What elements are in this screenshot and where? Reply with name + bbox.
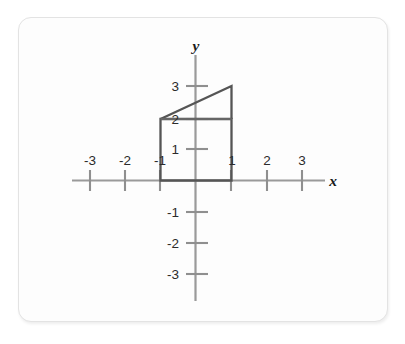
x-tick-label-minus3: -3 bbox=[84, 153, 96, 168]
y-tick-label-minus2: -2 bbox=[167, 236, 179, 251]
y-tick-label-1: 1 bbox=[171, 142, 179, 157]
x-tick-label-2: 2 bbox=[263, 153, 271, 168]
y-tick-label-minus1: -1 bbox=[167, 205, 179, 220]
x-tick-label-minus1: -1 bbox=[154, 153, 166, 168]
y-tick-label-minus3: -3 bbox=[167, 267, 179, 282]
x-tick-label-1: 1 bbox=[228, 153, 236, 168]
x-tick-label-3: 3 bbox=[298, 153, 306, 168]
x-axis-label: x bbox=[328, 172, 337, 189]
x-tick-label-minus2: -2 bbox=[119, 153, 131, 168]
coordinate-plane-figure: -3 -2 -1 1 2 3 3 2 1 -1 -2 -3 x y bbox=[0, 0, 405, 344]
y-tick-label-3: 3 bbox=[171, 79, 179, 94]
y-axis-label: y bbox=[191, 37, 200, 54]
y-tick-label-2: 2 bbox=[171, 112, 179, 127]
screenshot-root: -3 -2 -1 1 2 3 3 2 1 -1 -2 -3 x y bbox=[0, 0, 405, 344]
